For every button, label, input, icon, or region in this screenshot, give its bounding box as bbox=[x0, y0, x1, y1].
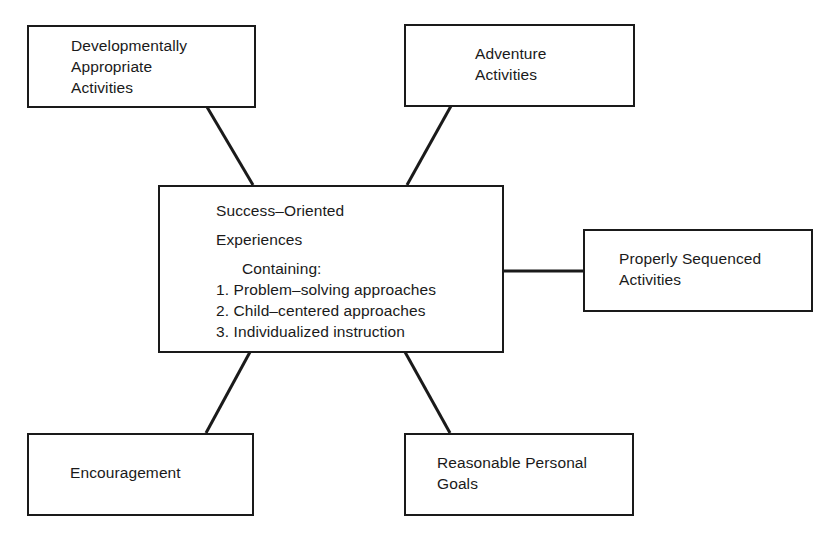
label-line: Goals bbox=[437, 473, 587, 494]
center-title-line1: Success–Oriented bbox=[216, 200, 344, 221]
node-developmentally-appropriate-activities-label: Developmentally Appropriate Activities bbox=[71, 35, 187, 98]
connector-bottom-left bbox=[206, 352, 250, 433]
connector-top-left bbox=[207, 107, 253, 185]
connector-top-right bbox=[407, 106, 451, 185]
center-item: 2. Child–centered approaches bbox=[216, 300, 436, 321]
label-line: Activities bbox=[475, 64, 547, 85]
center-item: 1. Problem–solving approaches bbox=[216, 279, 436, 300]
label-line: Developmentally bbox=[71, 35, 187, 56]
label-line: Adventure bbox=[475, 43, 547, 64]
label-line: Activities bbox=[619, 269, 761, 290]
center-item: 3. Individualized instruction bbox=[216, 321, 436, 342]
label-line: Reasonable Personal bbox=[437, 452, 587, 473]
label-line: Properly Sequenced bbox=[619, 248, 761, 269]
node-adventure-activities-label: Adventure Activities bbox=[475, 43, 547, 85]
center-title-line2: Experiences bbox=[216, 229, 302, 250]
label-line: Activities bbox=[71, 77, 187, 98]
node-properly-sequenced-activities-label: Properly Sequenced Activities bbox=[619, 248, 761, 290]
label-line: Encouragement bbox=[70, 462, 181, 483]
node-reasonable-personal-goals-label: Reasonable Personal Goals bbox=[437, 452, 587, 494]
label-line: Appropriate bbox=[71, 56, 187, 77]
center-item-list: 1. Problem–solving approaches 2. Child–c… bbox=[216, 279, 436, 342]
center-subtitle: Containing: bbox=[242, 258, 322, 279]
node-encouragement-label: Encouragement bbox=[70, 462, 181, 483]
connector-bottom-right bbox=[405, 352, 450, 433]
